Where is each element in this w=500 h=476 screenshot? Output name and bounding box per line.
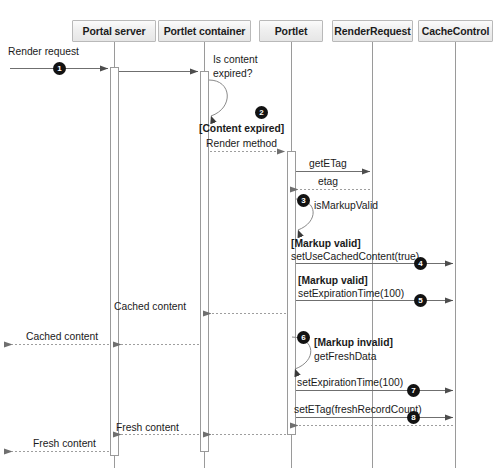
label-is-content-expired-line2: expired? <box>213 68 253 80</box>
lifeline-header-portal-server-label: Portal server <box>83 25 146 37</box>
label-fresh-content-1: Fresh content <box>116 422 179 434</box>
activation-portlet <box>288 152 296 435</box>
activation-portal-server <box>111 68 119 456</box>
label-cached-content-1: Cached content <box>114 301 186 313</box>
label-set-expiration-time-2: setExpirationTime(100) <box>297 377 403 389</box>
message-is-content-expired-self <box>209 80 227 116</box>
label-render-method: Render method <box>206 138 277 150</box>
lifeline-header-portlet-container-label: Portlet container <box>164 25 246 37</box>
step-badge-1: 1 <box>53 62 66 75</box>
lifeline-header-portlet[interactable]: Portlet <box>259 20 323 42</box>
sequence-diagram-canvas: Portal server Portlet container Portlet … <box>0 0 500 476</box>
step-badge-3: 3 <box>297 194 310 207</box>
lifeline-header-cachecontrol[interactable]: CacheControl <box>418 20 493 42</box>
step-badge-6: 6 <box>297 331 310 344</box>
label-markup-valid-guard-1: [Markup valid] <box>291 238 361 250</box>
step-badge-7: 7 <box>407 384 420 397</box>
label-set-etag: setETag(freshRecordCount) <box>294 404 422 416</box>
lifeline-header-renderrequest-label: RenderRequest <box>334 25 410 37</box>
step-badge-5: 5 <box>414 294 427 307</box>
label-cached-content-2: Cached content <box>26 331 98 343</box>
label-etag: etag <box>318 176 338 188</box>
lifeline-header-renderrequest[interactable]: RenderRequest <box>332 20 413 42</box>
step-badge-8: 8 <box>407 411 420 424</box>
label-markup-valid-guard-2: [Markup valid] <box>298 275 368 287</box>
label-get-fresh-data: getFreshData <box>314 351 376 363</box>
label-render-request: Render request <box>8 46 79 58</box>
step-badge-4: 4 <box>414 257 427 270</box>
lifeline-header-portlet-label: Portlet <box>275 25 308 37</box>
label-set-use-cached-content: setUseCachedContent(true) <box>291 251 419 263</box>
label-get-etag: getETag <box>309 158 347 170</box>
lifeline-header-cachecontrol-label: CacheControl <box>422 25 490 37</box>
lifeline-header-portal-server[interactable]: Portal server <box>72 20 156 42</box>
step-badge-2: 2 <box>255 106 268 119</box>
label-markup-invalid-guard: [Markup invalid] <box>314 337 393 349</box>
label-fresh-content-2: Fresh content <box>33 438 96 450</box>
label-set-expiration-time-1: setExpirationTime(100) <box>298 288 404 300</box>
label-content-expired-guard: [Content expired] <box>199 123 284 135</box>
lifeline-header-portlet-container[interactable]: Portlet container <box>158 20 251 42</box>
label-is-content-expired-line1: Is content <box>213 54 258 66</box>
label-is-markup-valid: isMarkupValid <box>314 200 378 212</box>
